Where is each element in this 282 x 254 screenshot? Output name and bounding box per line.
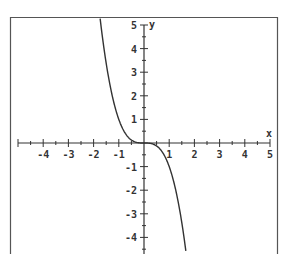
function-plot: -4-3-2-11234554321-1-2-3-4 x y <box>0 0 282 254</box>
function-curve <box>100 19 186 251</box>
x-tick-label: 2 <box>191 149 197 160</box>
x-tick-label: 5 <box>267 149 273 160</box>
x-tick-label: 3 <box>217 149 223 160</box>
x-tick-label: 4 <box>242 149 248 160</box>
y-tick-label: 5 <box>131 20 137 31</box>
x-tick-label: -4 <box>37 149 49 160</box>
y-tick-label: -4 <box>125 232 137 243</box>
x-tick-label: -1 <box>113 149 125 160</box>
y-tick-label: -1 <box>125 162 137 173</box>
tick-labels: -4-3-2-11234554321-1-2-3-4 <box>37 20 273 243</box>
x-tick-label: -2 <box>88 149 100 160</box>
x-tick-label: -3 <box>62 149 74 160</box>
x-tick-label: 1 <box>166 149 172 160</box>
y-tick-label: -2 <box>125 185 137 196</box>
y-tick-label: 1 <box>131 114 137 125</box>
y-tick-label: 4 <box>131 44 137 55</box>
y-tick-label: 3 <box>131 67 137 78</box>
axes <box>18 25 270 254</box>
y-tick-label: 2 <box>131 91 137 102</box>
y-axis-label: y <box>149 19 155 30</box>
y-tick-label: -3 <box>125 209 137 220</box>
x-axis-label: x <box>266 128 272 139</box>
